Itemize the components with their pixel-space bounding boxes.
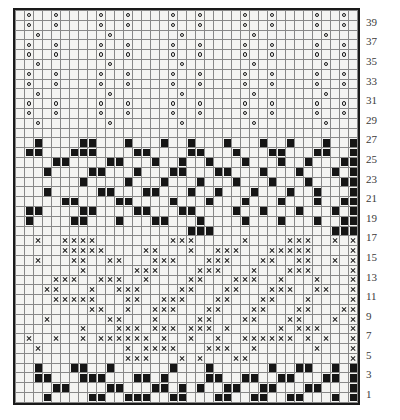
chart-cell-black [259, 138, 268, 148]
chart-cell-empty [34, 216, 43, 226]
row-number-label-7: 7 [366, 331, 400, 341]
chart-cell-empty [88, 59, 97, 69]
chart-cell-empty [250, 177, 259, 187]
chart-cell-empty [169, 285, 178, 295]
chart-cell-empty [25, 118, 34, 128]
chart-cell-cross [70, 246, 79, 256]
chart-cell-black [232, 206, 241, 216]
chart-cell-black [205, 197, 214, 207]
chart-cell-empty [349, 69, 358, 79]
chart-cell-empty [241, 265, 250, 275]
chart-cell-empty [340, 59, 349, 69]
chart-cell-cross [124, 344, 133, 354]
chart-cell-circle [196, 50, 205, 60]
chart-cell-empty [61, 50, 70, 60]
chart-cell-cross [349, 285, 358, 295]
chart-cell-empty [277, 30, 286, 40]
chart-cell-empty [277, 11, 286, 21]
chart-cell-empty [34, 167, 43, 177]
chart-cell-empty [241, 363, 250, 373]
row-number-label-23: 23 [366, 175, 400, 185]
chart-cell-circle [124, 20, 133, 30]
chart-cell-empty [88, 11, 97, 21]
chart-cell-empty [349, 20, 358, 30]
chart-cell-empty [97, 285, 106, 295]
chart-cell-empty [304, 30, 313, 40]
chart-cell-empty [241, 324, 250, 334]
chart-cell-black [169, 363, 178, 373]
chart-cell-black [70, 197, 79, 207]
chart-cell-empty [34, 197, 43, 207]
chart-cell-empty [214, 20, 223, 30]
chart-cell-cross [331, 314, 340, 324]
chart-cell-empty [187, 79, 196, 89]
chart-cell-empty [340, 344, 349, 354]
chart-cell-empty [34, 246, 43, 256]
chart-row [16, 304, 358, 314]
chart-cell-empty [304, 69, 313, 79]
chart-cell-empty [304, 187, 313, 197]
chart-cell-empty [25, 128, 34, 138]
chart-cell-black [169, 167, 178, 177]
chart-cell-empty [295, 89, 304, 99]
chart-cell-black [250, 393, 259, 403]
chart-cell-empty [52, 373, 61, 383]
chart-cell-empty [25, 197, 34, 207]
chart-cell-empty [106, 99, 115, 109]
chart-cell-empty [214, 50, 223, 60]
chart-cell-empty [16, 255, 25, 265]
chart-cell-cross [349, 324, 358, 334]
chart-cell-empty [268, 167, 277, 177]
chart-cell-empty [70, 157, 79, 167]
chart-cell-cross [151, 265, 160, 275]
chart-cell-empty [34, 11, 43, 21]
chart-cell-black [268, 363, 277, 373]
chart-cell-cross [106, 255, 115, 265]
chart-cell-empty [169, 216, 178, 226]
chart-cell-empty [97, 157, 106, 167]
chart-cell-empty [133, 59, 142, 69]
chart-cell-empty [268, 89, 277, 99]
chart-cell-cross [241, 236, 250, 246]
chart-cell-empty [286, 304, 295, 314]
chart-cell-circle [241, 40, 250, 50]
chart-cell-empty [79, 383, 88, 393]
chart-cell-empty [295, 216, 304, 226]
chart-cell-empty [124, 216, 133, 226]
chart-cell-empty [142, 236, 151, 246]
chart-cell-black [187, 206, 196, 216]
chart-cell-black [88, 206, 97, 216]
chart-cell-black [79, 363, 88, 373]
chart-cell-black [61, 197, 70, 207]
chart-cell-empty [232, 50, 241, 60]
chart-cell-empty [340, 334, 349, 344]
chart-cell-empty [16, 353, 25, 363]
chart-cell-empty [115, 138, 124, 148]
chart-cell-empty [259, 226, 268, 236]
chart-cell-black [52, 157, 61, 167]
chart-cell-empty [268, 373, 277, 383]
chart-cell-black [277, 216, 286, 226]
chart-cell-empty [97, 216, 106, 226]
chart-cell-empty [142, 59, 151, 69]
chart-cell-empty [223, 334, 232, 344]
chart-cell-circle [241, 108, 250, 118]
row-number-label-31: 31 [366, 96, 400, 106]
chart-cell-empty [331, 20, 340, 30]
chart-cell-empty [223, 236, 232, 246]
chart-cell-empty [124, 30, 133, 40]
chart-cell-empty [304, 118, 313, 128]
chart-cell-empty [61, 216, 70, 226]
chart-cell-empty [43, 275, 52, 285]
chart-cell-black [286, 373, 295, 383]
chart-cell-empty [250, 99, 259, 109]
chart-cell-circle [169, 99, 178, 109]
chart-cell-black [34, 148, 43, 158]
chart-cell-empty [340, 383, 349, 393]
chart-cell-empty [259, 79, 268, 89]
chart-cell-empty [259, 11, 268, 21]
chart-cell-circle [106, 89, 115, 99]
chart-cell-cross [349, 304, 358, 314]
chart-cell-empty [61, 148, 70, 158]
chart-cell-empty [277, 40, 286, 50]
